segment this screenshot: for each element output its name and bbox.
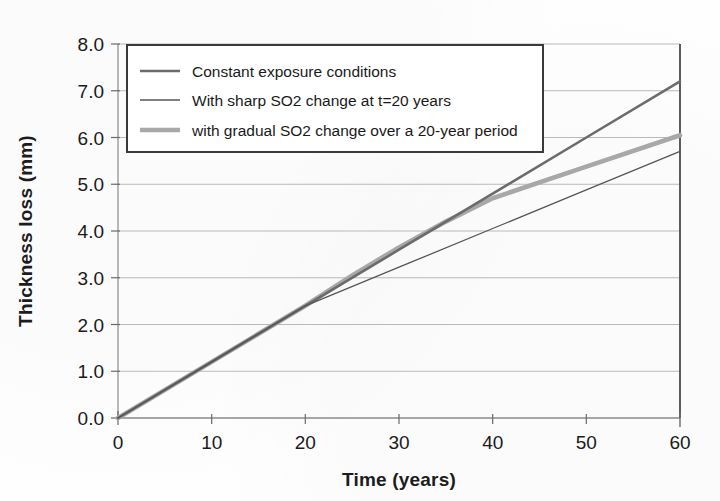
legend: Constant exposure conditions With sharp …: [127, 45, 543, 152]
y-tick-label: 8.0: [78, 34, 104, 55]
x-tick-label: 10: [201, 432, 222, 453]
legend-label-sharp: With sharp SO2 change at t=20 years: [192, 92, 451, 109]
x-tick-label: 0: [113, 432, 124, 453]
series-line-sharp: [118, 151, 680, 418]
y-tick-label: 2.0: [78, 315, 104, 336]
y-tick-label: 3.0: [78, 268, 104, 289]
legend-label-constant: Constant exposure conditions: [192, 63, 396, 80]
y-tick-label: 0.0: [78, 408, 104, 429]
y-tick-label: 5.0: [78, 174, 104, 195]
y-tick-label: 6.0: [78, 128, 104, 149]
x-tick-label: 60: [669, 432, 690, 453]
y-tick-labels: 8.0 7.0 6.0 5.0 4.0 3.0 2.0 1.0 0.0: [78, 34, 104, 429]
x-tick-label: 50: [576, 432, 597, 453]
legend-label-gradual: with gradual SO2 change over a 20-year p…: [191, 122, 518, 139]
chart-svg: 8.0 7.0 6.0 5.0 4.0 3.0 2.0 1.0 0.0 0 10…: [0, 0, 720, 501]
x-tick-label: 30: [388, 432, 409, 453]
chart-figure: 8.0 7.0 6.0 5.0 4.0 3.0 2.0 1.0 0.0 0 10…: [0, 0, 720, 501]
x-tick-label: 20: [295, 432, 316, 453]
y-tick-label: 7.0: [78, 81, 104, 102]
y-tick-label: 4.0: [78, 221, 104, 242]
x-tick-labels: 0 10 20 30 40 50 60: [113, 432, 691, 453]
legend-item-gradual[interactable]: with gradual SO2 change over a 20-year p…: [140, 122, 518, 139]
y-tick-label: 1.0: [78, 361, 104, 382]
x-axis-title: Time (years): [342, 469, 456, 490]
y-tick-marks: [111, 44, 120, 418]
y-axis-title: Thickness loss (mm): [15, 135, 36, 327]
x-tick-marks: [118, 411, 680, 427]
x-tick-label: 40: [482, 432, 503, 453]
series-line-gradual: [118, 135, 680, 418]
